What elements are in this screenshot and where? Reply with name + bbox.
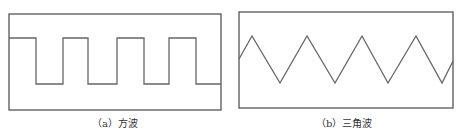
square-wave-line: [9, 38, 221, 84]
caption-triangle-wave: （b）三角波: [316, 115, 372, 130]
caption-square-wave: （a）方波: [92, 115, 138, 130]
waveform-diagram: [0, 0, 460, 131]
triangle-wave-frame: [239, 12, 453, 108]
square-wave-frame: [9, 14, 221, 110]
triangle-wave-line: [239, 36, 453, 83]
